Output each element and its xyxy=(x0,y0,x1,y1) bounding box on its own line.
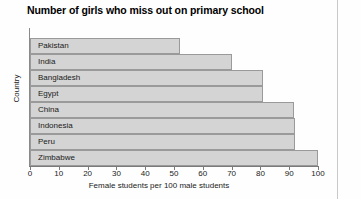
x-axis-tick-label: 70 xyxy=(227,169,236,178)
x-axis-tick-label: 100 xyxy=(311,169,324,178)
bar xyxy=(30,54,232,70)
x-axis-tick-label: 30 xyxy=(112,169,121,178)
x-axis-tick-label: 10 xyxy=(54,169,63,178)
page-edge-rule xyxy=(337,0,338,199)
x-axis-tick-label: 90 xyxy=(285,169,294,178)
chart-page: Number of girls who miss out on primary … xyxy=(0,0,361,199)
bar-category-label: India xyxy=(38,54,55,70)
x-axis-tick-label: 80 xyxy=(256,169,265,178)
bar-row: China xyxy=(30,102,318,118)
y-axis-title: Country xyxy=(12,59,21,119)
plot-area: PakistanIndiaBangladeshEgyptChinaIndones… xyxy=(30,38,318,166)
bar-row: Pakistan xyxy=(30,38,318,54)
x-axis-tick-label: 50 xyxy=(170,169,179,178)
bar-category-label: Indonesia xyxy=(38,118,73,134)
bar-category-label: Pakistan xyxy=(38,38,69,54)
x-axis-tick-label: 0 xyxy=(28,169,32,178)
x-axis-tick-label: 20 xyxy=(83,169,92,178)
bar-category-label: China xyxy=(38,102,59,118)
x-axis-tick-label: 60 xyxy=(198,169,207,178)
x-axis-title: Female students per 100 male students xyxy=(0,181,361,190)
chart-title: Number of girls who miss out on primary … xyxy=(27,4,264,16)
bar-category-label: Zimbabwe xyxy=(38,150,75,166)
x-axis-tick-label: 40 xyxy=(141,169,150,178)
bar xyxy=(30,102,294,118)
bar-category-label: Peru xyxy=(38,134,55,150)
bar-row: Bangladesh xyxy=(30,70,318,86)
bar xyxy=(30,134,295,150)
bar-row: India xyxy=(30,54,318,70)
bar-category-label: Egypt xyxy=(38,86,58,102)
bar-row: Zimbabwe xyxy=(30,150,318,166)
bar xyxy=(30,86,263,102)
bar-category-label: Bangladesh xyxy=(38,70,80,86)
bar-row: Indonesia xyxy=(30,118,318,134)
bar-row: Egypt xyxy=(30,86,318,102)
bar-row: Peru xyxy=(30,134,318,150)
